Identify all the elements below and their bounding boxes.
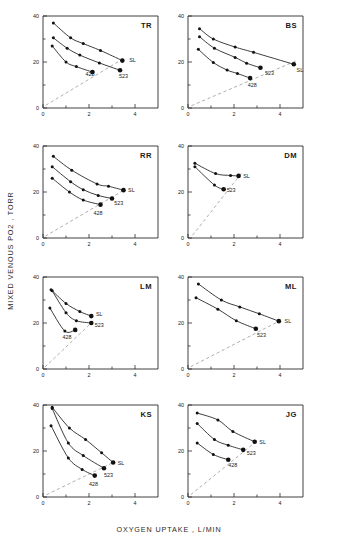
data-point xyxy=(198,27,201,30)
panel-bs: 02402040BSSL523428 xyxy=(178,13,303,117)
curve-label-sl: SL xyxy=(259,439,266,445)
data-point xyxy=(65,61,68,64)
x-tick-label: 0 xyxy=(187,372,190,378)
curve-label-sl: SL xyxy=(243,173,250,179)
curve-label-sl: SL xyxy=(129,57,136,63)
curve-label-523: 523 xyxy=(247,450,256,456)
x-tick-label: 2 xyxy=(233,500,236,506)
panel-ks: 02402040KSSL523428 xyxy=(33,402,158,506)
x-tick-label: 0 xyxy=(42,372,45,378)
x-tick-label: 2 xyxy=(233,111,236,117)
x-tick-label: 0 xyxy=(187,111,190,117)
reference-line xyxy=(191,61,296,106)
y-tick-label: 0 xyxy=(181,105,184,111)
data-point xyxy=(107,185,110,188)
data-point xyxy=(245,62,248,65)
data-point xyxy=(120,58,125,63)
x-tick-label: 2 xyxy=(88,111,91,117)
x-tick-label: 4 xyxy=(134,372,137,378)
x-tick-label: 0 xyxy=(42,111,45,117)
curve-label-428: 428 xyxy=(89,481,98,487)
data-point xyxy=(220,299,223,302)
data-point xyxy=(195,296,198,299)
y-tick-label: 20 xyxy=(33,448,39,454)
curve-428 xyxy=(198,49,250,78)
data-point xyxy=(81,468,84,471)
data-point xyxy=(92,473,97,478)
data-point xyxy=(99,49,102,52)
curve-sl xyxy=(53,23,122,61)
data-point xyxy=(51,44,54,47)
x-tick-label: 2 xyxy=(88,241,91,247)
y-tick-label: 40 xyxy=(33,143,39,149)
data-point xyxy=(51,165,54,168)
x-tick-label: 2 xyxy=(233,372,236,378)
data-point xyxy=(98,202,103,207)
x-tick-label: 4 xyxy=(134,111,137,117)
curve-label-523: 523 xyxy=(114,200,123,206)
x-tick-label: 0 xyxy=(42,500,45,506)
curve-523 xyxy=(195,167,224,190)
y-tick-label: 20 xyxy=(178,448,184,454)
x-tick-label: 0 xyxy=(42,241,45,247)
curve-label-428: 428 xyxy=(248,82,257,88)
data-point xyxy=(82,199,85,202)
data-point xyxy=(234,46,237,49)
data-point xyxy=(70,169,73,172)
curve-label-523: 523 xyxy=(257,332,266,338)
data-point xyxy=(69,36,72,39)
y-tick-label: 40 xyxy=(178,402,184,408)
y-tick-label: 0 xyxy=(181,494,184,500)
data-point xyxy=(197,48,200,51)
curve-label-523: 523 xyxy=(227,187,236,193)
data-point xyxy=(227,444,230,447)
data-point xyxy=(75,319,78,322)
curve-label-428: 428 xyxy=(86,71,95,77)
data-point xyxy=(258,312,261,315)
data-point xyxy=(89,321,94,326)
y-tick-label: 20 xyxy=(33,59,39,65)
data-point xyxy=(216,308,219,311)
x-tick-label: 4 xyxy=(279,500,282,506)
data-point xyxy=(78,54,81,57)
y-tick-label: 40 xyxy=(178,143,184,149)
curve-428 xyxy=(197,443,228,460)
data-point xyxy=(67,456,70,459)
data-point xyxy=(252,51,255,54)
data-point xyxy=(63,330,66,333)
curve-sl xyxy=(53,156,123,190)
y-tick-label: 20 xyxy=(178,189,184,195)
panel-title: KS xyxy=(140,410,152,419)
data-point xyxy=(254,326,259,331)
data-point xyxy=(213,47,216,50)
curve-428 xyxy=(50,308,75,332)
data-point xyxy=(212,38,215,41)
reference-line xyxy=(193,172,242,235)
y-tick-label: 40 xyxy=(33,13,39,19)
curve-label-sl: SL xyxy=(297,67,304,73)
y-tick-label: 40 xyxy=(33,402,39,408)
panel-lm: 02402040LMSL523428 xyxy=(33,274,158,378)
curve-sl xyxy=(51,290,91,316)
curve-428 xyxy=(51,426,95,476)
data-point xyxy=(48,307,51,310)
x-axis-label: OXYGEN UPTAKE , L/MIN xyxy=(116,525,221,534)
y-tick-label: 20 xyxy=(33,189,39,195)
data-point xyxy=(193,162,196,165)
data-point xyxy=(102,466,107,471)
data-point xyxy=(78,310,81,313)
curve-label-sl: SL xyxy=(96,311,103,317)
x-tick-label: 0 xyxy=(187,241,190,247)
curve-label-428: 428 xyxy=(63,334,72,340)
data-point xyxy=(73,328,78,333)
data-point xyxy=(197,282,200,285)
y-tick-label: 20 xyxy=(33,320,39,326)
data-point xyxy=(252,440,257,445)
x-tick-label: 4 xyxy=(279,372,282,378)
figure-multi-panel-scatter: MIXED VENOUS PO2 , TORR 02402040TRSL5234… xyxy=(0,0,338,544)
y-tick-label: 0 xyxy=(36,366,39,372)
x-tick-label: 2 xyxy=(233,241,236,247)
data-point xyxy=(52,36,55,39)
data-point xyxy=(82,42,85,45)
x-tick-label: 4 xyxy=(279,111,282,117)
